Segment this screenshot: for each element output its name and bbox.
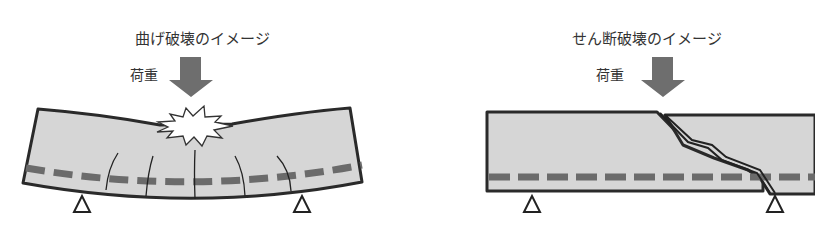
right-load-arrow-icon (641, 57, 685, 97)
support-triangle-icon (524, 196, 783, 212)
diagram-canvas (0, 0, 815, 236)
left-load-arrow-icon (169, 57, 213, 97)
shear-beam (487, 112, 815, 194)
